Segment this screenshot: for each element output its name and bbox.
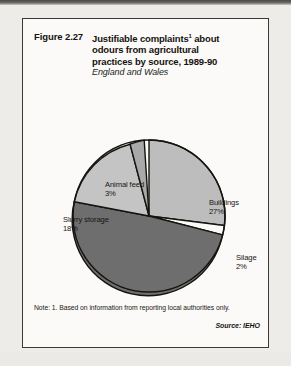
scan-artifact-bottom-band (0, 352, 291, 366)
pie-label-slurry-storage: Slurry storage 18% (63, 215, 109, 233)
pie-label-silage-value: 2% (236, 262, 247, 271)
pie-label-buildings-value: 27% (209, 207, 224, 216)
pie-label-animal-feed: Animal feed 3% (105, 180, 144, 198)
figure-title-line1: Justifiable complaints (92, 33, 188, 44)
pie-label-slurry-storage-name: Slurry storage (63, 215, 109, 224)
pie-label-buildings: Buildings 27% (209, 198, 239, 216)
pie-label-silage: Silage 2% (236, 253, 257, 271)
figure-subtitle: England and Wales (92, 67, 260, 78)
pie-label-buildings-name: Buildings (209, 198, 239, 207)
figure-title-line3: practices by source, 1989-90 (92, 56, 217, 67)
pie-label-animal-feed-name: Animal feed (105, 180, 144, 189)
figure-note: Note: 1. Based on information from repor… (34, 303, 260, 312)
pie-label-slurry-storage-value: 18% (63, 224, 78, 233)
pie-chart-svg (23, 85, 268, 297)
figure-number: Figure 2.27 (34, 31, 92, 42)
pie-label-animal-feed-value: 3% (105, 189, 116, 198)
figure-header: Figure 2.27 Justifiable complaints1 abou… (34, 31, 260, 78)
figure-title: Justifiable complaints1 about odours fro… (92, 31, 260, 67)
pie-label-silage-name: Silage (236, 253, 257, 262)
pie-chart: Animal feed 3% Buildings 27% Slurry stor… (23, 85, 268, 297)
figure-box: Figure 2.27 Justifiable complaints1 abou… (22, 18, 269, 348)
figure-title-line1-rest: about (192, 33, 220, 44)
figure-source: Source: IEHO (34, 322, 260, 329)
figure-title-line2: odours from agricultural (92, 44, 199, 55)
